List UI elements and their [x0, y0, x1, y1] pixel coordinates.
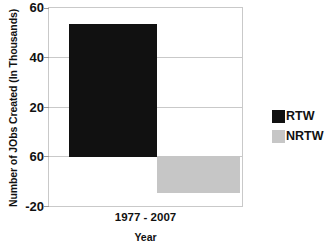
- legend-label-rtw: RTW: [286, 110, 314, 123]
- tickmark-minus-20: [44, 206, 49, 207]
- tickmark-zero: [44, 156, 49, 157]
- bar-nrtw: [157, 156, 240, 193]
- legend-label-nrtw: NRTW: [286, 130, 324, 143]
- y-tick-label-40: 40: [4, 51, 44, 64]
- y-tick-label-minus-20: -20: [4, 200, 44, 213]
- legend-swatch-nrtw-icon: [272, 130, 285, 143]
- x-axis-title: Year: [48, 231, 243, 243]
- bar-chart: Number of JObs Created (In Thousands) 60…: [0, 0, 335, 250]
- tickmark-20: [44, 107, 49, 108]
- x-axis-category-label: 1977 - 2007: [48, 211, 243, 223]
- plot-area: [48, 7, 243, 207]
- legend-item-rtw: RTW: [272, 108, 324, 125]
- legend-item-nrtw: NRTW: [272, 128, 324, 145]
- tickmark-60-top: [44, 8, 49, 9]
- bar-rtw: [69, 24, 157, 157]
- tickmark-40: [44, 57, 49, 58]
- y-tick-label-20: 20: [4, 101, 44, 114]
- y-axis-tick-labels: 60 40 20 60 -20: [0, 0, 44, 250]
- legend-swatch-rtw-icon: [272, 110, 285, 123]
- legend: RTW NRTW: [272, 108, 324, 148]
- y-tick-label-zero: 60: [4, 150, 44, 163]
- y-tick-label-60-top: 60: [4, 1, 44, 14]
